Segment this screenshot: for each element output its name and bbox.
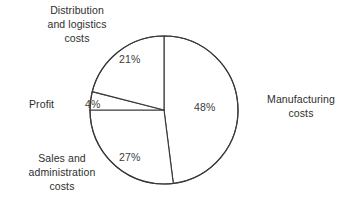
pie-value-label-manufacturing: 48% bbox=[194, 101, 216, 113]
pie-value-label-distribution: 21% bbox=[119, 53, 141, 65]
pie-category-label-distribution: Distribution and logistics costs bbox=[18, 4, 136, 46]
pie-category-label-profit: Profit bbox=[29, 98, 79, 112]
pie-value-label-profit: 4% bbox=[85, 98, 101, 110]
pie-category-label-sales: Sales and administration costs bbox=[7, 152, 117, 194]
pie-category-label-manufacturing: Manufacturing costs bbox=[259, 93, 343, 121]
pie-chart-figure: 48% 27% 4% 21% Distribution and logistic… bbox=[0, 0, 344, 209]
pie-value-label-sales: 27% bbox=[119, 151, 141, 163]
